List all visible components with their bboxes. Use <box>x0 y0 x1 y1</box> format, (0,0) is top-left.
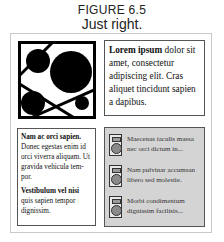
device-icon <box>109 134 122 156</box>
lorem-bold: Lorem ipsum <box>109 45 162 55</box>
abstract-circles-image <box>18 41 96 119</box>
figure-label: FIGURE 6.5 <box>0 3 224 17</box>
device-icon <box>109 165 122 187</box>
list-item: Morbi condimentum dignissim facilisis... <box>109 196 203 222</box>
device-icon <box>109 196 122 218</box>
left-paragraph-2: Vestibulum vel nisi quis sapien tempor d… <box>21 186 92 216</box>
lorem-text-box: Lorem ipsum dolor sit amet, consectetur … <box>104 40 205 116</box>
figure-caption: Just right. <box>0 16 224 32</box>
list-item: Maecenas iaculis massa nec orci dictum i… <box>109 134 203 160</box>
left-paragraph-1: Nam ac orci sapien. Donec egestas enim i… <box>21 132 92 182</box>
list-item: Nam pulvinar accumsan libero sed molesti… <box>109 165 203 191</box>
gray-list-box: Maecenas iaculis massa nec orci dictum i… <box>104 127 205 227</box>
left-text-box: Nam ac orci sapien. Donec egestas enim i… <box>17 128 96 226</box>
